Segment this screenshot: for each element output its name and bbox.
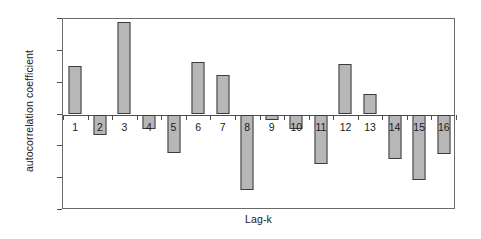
x-axis-category-label: 2 <box>97 121 103 133</box>
bar <box>69 66 82 114</box>
bar-slot: 9 <box>260 19 285 208</box>
bar-slot: 4 <box>137 19 162 208</box>
x-axis-tick <box>235 115 236 120</box>
y-axis-tick <box>57 209 62 210</box>
bar-slot: 6 <box>186 19 211 208</box>
bar-slot: 10 <box>284 19 309 208</box>
x-axis-tick <box>112 115 113 120</box>
x-axis-tick <box>333 115 334 120</box>
x-axis-category-label: 14 <box>389 121 401 133</box>
bar-slot: 14 <box>382 19 407 208</box>
x-axis-category-label: 6 <box>195 121 201 133</box>
x-axis-category-label: 10 <box>291 121 303 133</box>
bar-slot: 13 <box>358 19 383 208</box>
bar-group: 12345678910111213141516 <box>63 19 454 208</box>
autocorrelation-bar-chart: autocorrelation coefficient 0.30.20.10-0… <box>0 0 481 239</box>
x-axis-tick <box>63 115 64 120</box>
x-axis-category-label: 4 <box>146 121 152 133</box>
bar-slot: 5 <box>161 19 186 208</box>
x-axis-tick <box>161 115 162 120</box>
bar <box>118 22 131 114</box>
x-axis-category-label: 15 <box>413 121 425 133</box>
bar-slot: 1 <box>63 19 88 208</box>
bar <box>339 64 352 115</box>
x-axis-title: Lag-k <box>62 213 455 225</box>
x-axis-tick <box>186 115 187 120</box>
x-axis-tick <box>260 115 261 120</box>
x-axis-category-label: 9 <box>269 121 275 133</box>
x-axis-tick <box>309 115 310 120</box>
y-axis-tick-group: 0.30.20.10-0.1-0.2-0.3 <box>0 0 62 191</box>
bar <box>192 62 205 115</box>
x-axis-tick <box>358 115 359 120</box>
bar <box>216 75 229 114</box>
plot-area: 12345678910111213141516 <box>62 18 455 209</box>
x-axis-category-label: 13 <box>364 121 376 133</box>
x-axis-tick <box>382 115 383 120</box>
x-axis-category-label: 11 <box>315 121 326 133</box>
x-axis-category-label: 7 <box>220 121 226 133</box>
x-axis-tick <box>284 115 285 120</box>
bar-slot: 15 <box>407 19 432 208</box>
x-axis-tick <box>407 115 408 120</box>
bar-slot: 8 <box>235 19 260 208</box>
x-axis-category-label: 1 <box>72 121 78 133</box>
bar-slot: 2 <box>88 19 113 208</box>
bar-slot: 12 <box>333 19 358 208</box>
x-axis-tick <box>137 115 138 120</box>
x-axis-tick <box>210 115 211 120</box>
x-axis-category-label: 3 <box>121 121 127 133</box>
x-axis-tick <box>431 115 432 120</box>
bar-slot: 7 <box>210 19 235 208</box>
x-axis-category-label: 16 <box>438 121 450 133</box>
bar-slot: 3 <box>112 19 137 208</box>
x-axis-category-label: 8 <box>244 121 250 133</box>
x-axis-category-label: 5 <box>171 121 177 133</box>
x-axis-tick <box>88 115 89 120</box>
bar <box>364 94 377 115</box>
bar-slot: 11 <box>309 19 334 208</box>
bar <box>265 115 278 120</box>
bar-slot: 16 <box>431 19 456 208</box>
x-axis-category-label: 12 <box>340 121 352 133</box>
x-axis-tick <box>456 115 457 120</box>
